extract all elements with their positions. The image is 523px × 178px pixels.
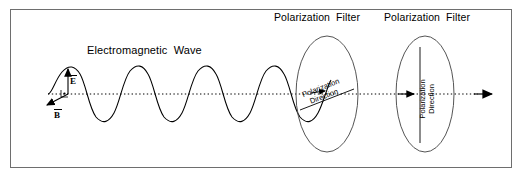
b-field-label: B	[54, 110, 60, 120]
diagram-canvas: Electromagnetic Wave Polarization Filter…	[0, 0, 523, 178]
electromagnetic-wave-label: Electromagnetic Wave	[87, 45, 202, 56]
polarization-filter-1-label: Polarization Filter	[274, 12, 360, 23]
b-field-vector	[47, 94, 68, 105]
polarization-direction-2-label: Polarization Direction	[418, 72, 437, 126]
diagram-vector-layer	[0, 0, 523, 178]
polarization-filter-2-label: Polarization Filter	[384, 12, 470, 23]
e-field-label: E	[70, 76, 76, 86]
